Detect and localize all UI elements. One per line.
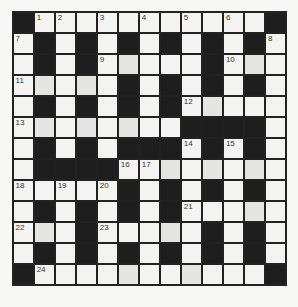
crossword-cell[interactable] — [14, 244, 33, 263]
crossword-cell[interactable] — [140, 265, 159, 284]
crossword-cell[interactable] — [140, 97, 159, 116]
crossword-cell[interactable] — [98, 97, 117, 116]
crossword-cell[interactable] — [266, 76, 285, 95]
crossword-cell[interactable]: 3 — [98, 13, 117, 32]
crossword-cell[interactable]: 16 — [119, 160, 138, 179]
crossword-cell[interactable] — [266, 244, 285, 263]
crossword-cell[interactable] — [35, 118, 54, 137]
crossword-cell[interactable] — [161, 13, 180, 32]
crossword-cell[interactable] — [140, 118, 159, 137]
crossword-cell[interactable] — [119, 13, 138, 32]
crossword-cell[interactable]: 22 — [14, 223, 33, 242]
crossword-cell[interactable]: 9 — [98, 55, 117, 74]
crossword-cell[interactable]: 2 — [56, 13, 75, 32]
crossword-cell[interactable] — [56, 244, 75, 263]
crossword-cell[interactable] — [203, 97, 222, 116]
crossword-cell[interactable]: 10 — [224, 55, 243, 74]
crossword-cell[interactable] — [14, 97, 33, 116]
crossword-cell[interactable] — [140, 202, 159, 221]
crossword-cell[interactable] — [224, 202, 243, 221]
crossword-cell[interactable] — [140, 34, 159, 53]
crossword-cell[interactable] — [224, 97, 243, 116]
crossword-cell[interactable] — [203, 160, 222, 179]
crossword-cell[interactable]: 17 — [140, 160, 159, 179]
crossword-cell[interactable]: 11 — [14, 76, 33, 95]
crossword-cell[interactable] — [56, 223, 75, 242]
crossword-cell[interactable] — [14, 160, 33, 179]
crossword-cell[interactable] — [182, 34, 201, 53]
crossword-cell[interactable] — [224, 223, 243, 242]
crossword-cell[interactable] — [140, 223, 159, 242]
crossword-cell[interactable] — [182, 181, 201, 200]
crossword-cell[interactable] — [266, 55, 285, 74]
crossword-cell[interactable] — [56, 118, 75, 137]
crossword-cell[interactable]: 13 — [14, 118, 33, 137]
crossword-cell[interactable] — [161, 118, 180, 137]
crossword-cell[interactable] — [56, 265, 75, 284]
crossword-cell[interactable]: 4 — [140, 13, 159, 32]
crossword-cell[interactable] — [98, 244, 117, 263]
crossword-cell[interactable] — [224, 181, 243, 200]
crossword-cell[interactable] — [14, 139, 33, 158]
crossword-cell[interactable] — [245, 97, 264, 116]
crossword-cell[interactable]: 15 — [224, 139, 243, 158]
crossword-cell[interactable] — [35, 223, 54, 242]
crossword-cell[interactable] — [266, 118, 285, 137]
crossword-cell[interactable] — [56, 55, 75, 74]
crossword-cell[interactable] — [182, 223, 201, 242]
crossword-cell[interactable]: 1 — [35, 13, 54, 32]
crossword-cell[interactable] — [14, 202, 33, 221]
crossword-cell[interactable] — [56, 202, 75, 221]
crossword-cell[interactable] — [77, 76, 96, 95]
crossword-cell[interactable] — [266, 160, 285, 179]
crossword-cell[interactable] — [161, 265, 180, 284]
crossword-cell[interactable] — [245, 202, 264, 221]
crossword-cell[interactable] — [224, 34, 243, 53]
crossword-cell[interactable] — [161, 55, 180, 74]
crossword-cell[interactable] — [77, 118, 96, 137]
crossword-cell[interactable] — [98, 34, 117, 53]
crossword-cell[interactable] — [266, 139, 285, 158]
crossword-cell[interactable]: 21 — [182, 202, 201, 221]
crossword-cell[interactable] — [35, 76, 54, 95]
crossword-cell[interactable] — [161, 160, 180, 179]
crossword-cell[interactable] — [98, 76, 117, 95]
crossword-cell[interactable] — [119, 55, 138, 74]
crossword-cell[interactable] — [182, 265, 201, 284]
crossword-cell[interactable]: 12 — [182, 97, 201, 116]
crossword-cell[interactable] — [182, 244, 201, 263]
crossword-cell[interactable] — [203, 13, 222, 32]
crossword-cell[interactable]: 14 — [182, 139, 201, 158]
crossword-cell[interactable] — [182, 160, 201, 179]
crossword-cell[interactable] — [224, 160, 243, 179]
crossword-cell[interactable] — [266, 202, 285, 221]
crossword-cell[interactable] — [98, 265, 117, 284]
crossword-cell[interactable] — [140, 181, 159, 200]
crossword-cell[interactable] — [245, 265, 264, 284]
crossword-cell[interactable] — [266, 181, 285, 200]
crossword-cell[interactable] — [140, 76, 159, 95]
crossword-cell[interactable]: 5 — [182, 13, 201, 32]
crossword-cell[interactable] — [98, 202, 117, 221]
crossword-cell[interactable] — [119, 223, 138, 242]
crossword-cell[interactable] — [182, 76, 201, 95]
crossword-cell[interactable] — [14, 55, 33, 74]
crossword-cell[interactable]: 23 — [98, 223, 117, 242]
crossword-cell[interactable] — [98, 139, 117, 158]
crossword-cell[interactable] — [119, 118, 138, 137]
crossword-cell[interactable] — [77, 13, 96, 32]
crossword-cell[interactable]: 6 — [224, 13, 243, 32]
crossword-cell[interactable] — [56, 76, 75, 95]
crossword-cell[interactable] — [266, 223, 285, 242]
crossword-cell[interactable] — [266, 97, 285, 116]
crossword-cell[interactable]: 20 — [98, 181, 117, 200]
crossword-cell[interactable] — [77, 265, 96, 284]
crossword-cell[interactable] — [56, 97, 75, 116]
crossword-cell[interactable]: 8 — [266, 34, 285, 53]
crossword-cell[interactable] — [245, 160, 264, 179]
crossword-cell[interactable] — [203, 265, 222, 284]
crossword-cell[interactable] — [140, 55, 159, 74]
crossword-cell[interactable] — [224, 265, 243, 284]
crossword-cell[interactable] — [98, 118, 117, 137]
crossword-cell[interactable]: 19 — [56, 181, 75, 200]
